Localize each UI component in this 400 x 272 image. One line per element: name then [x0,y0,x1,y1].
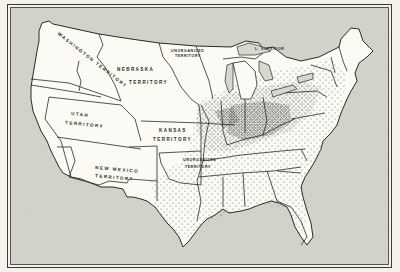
label-nebraska-territory: Territory [129,81,168,86]
map-page: Washington Territory Nebraska Territory … [0,0,400,272]
label-nebraska: Nebraska [117,68,154,73]
label-kansas-territory: Territory [153,138,192,143]
label-unorganized-south-territory: Territory [185,166,211,170]
label-unorganized-north-territory: Territory [175,55,201,59]
us-territories-map [11,8,389,265]
label-lake-superior: L. Superior [255,48,285,52]
label-unorganized-south: Unorganized [183,159,216,163]
map-frame: Washington Territory Nebraska Territory … [10,7,389,265]
label-kansas: Kansas [159,129,187,134]
